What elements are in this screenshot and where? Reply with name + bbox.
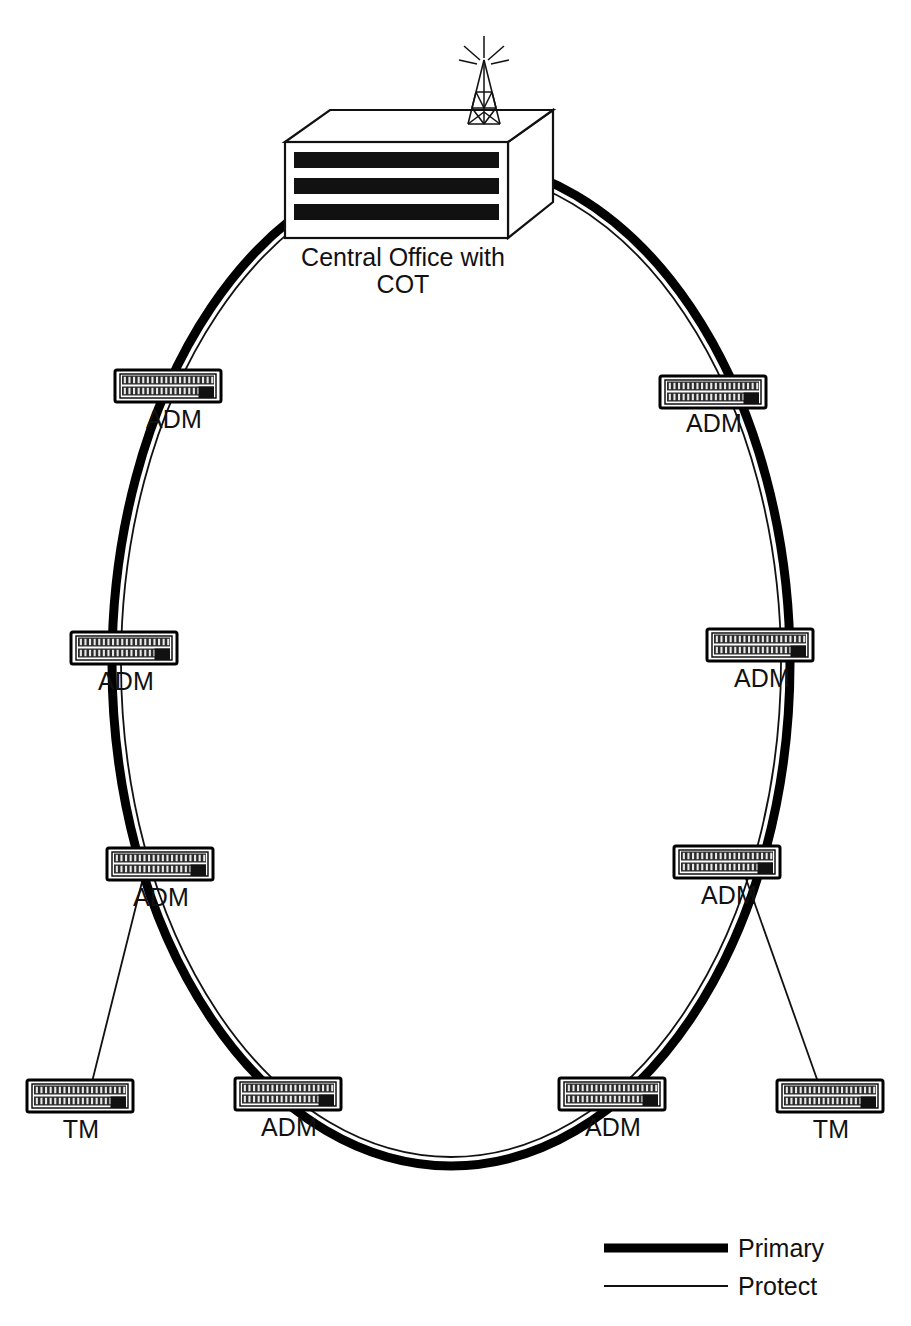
window-band <box>294 178 499 194</box>
node-adm-upper-left[interactable]: ADM <box>115 370 221 433</box>
adm-shelf-icon <box>235 1078 341 1110</box>
adm-shelf-icon <box>660 376 766 408</box>
node-label-adm-bottom-right: ADM <box>585 1113 641 1141</box>
node-label-adm-upper-left: ADM <box>146 405 202 433</box>
window-band <box>294 204 499 220</box>
node-label-adm-bottom-left: ADM <box>261 1113 317 1141</box>
protect-ring-path <box>121 169 781 1157</box>
central-office-building-icon <box>283 110 553 240</box>
legend: Primary Protect <box>604 1234 825 1300</box>
tm-shelf-icon <box>777 1080 883 1112</box>
node-label-tm-right: TM <box>813 1115 850 1143</box>
node-tm-right[interactable]: TM <box>777 1080 883 1143</box>
node-label-adm-mid-right: ADM <box>734 664 790 692</box>
node-label-adm-upper-right: ADM <box>686 409 742 437</box>
legend-item-primary: Primary <box>604 1234 825 1262</box>
node-label-adm-lower-right: ADM <box>701 881 757 909</box>
ring-network-diagram: Central Office with COT ADM ADM ADM ADM … <box>0 0 911 1326</box>
adm-shelf-icon <box>559 1078 665 1110</box>
tm-shelf-icon <box>27 1080 133 1112</box>
legend-label-primary: Primary <box>738 1234 825 1262</box>
diagram-canvas: Central Office with COT ADM ADM ADM ADM … <box>0 0 911 1326</box>
primary-ring-path <box>112 160 790 1166</box>
node-adm-mid-left[interactable]: ADM <box>71 632 177 695</box>
central-office-label-line1: Central Office with <box>301 243 505 271</box>
adm-shelf-icon <box>674 846 780 878</box>
legend-item-protect: Protect <box>604 1272 817 1300</box>
node-label-adm-mid-left: ADM <box>98 667 154 695</box>
adm-shelf-icon <box>115 370 221 402</box>
adm-shelf-icon <box>707 629 813 661</box>
window-band <box>294 152 499 168</box>
central-office-label-line2: COT <box>377 270 430 298</box>
node-adm-lower-right[interactable]: ADM <box>674 846 780 909</box>
node-adm-lower-left[interactable]: ADM <box>107 848 213 911</box>
adm-shelf-icon <box>71 632 177 664</box>
node-adm-mid-right[interactable]: ADM <box>707 629 813 692</box>
legend-label-protect: Protect <box>738 1272 817 1300</box>
node-label-adm-lower-left: ADM <box>133 883 189 911</box>
adm-shelf-icon <box>107 848 213 880</box>
node-tm-left[interactable]: TM <box>27 1080 133 1143</box>
node-label-tm-left: TM <box>63 1115 100 1143</box>
